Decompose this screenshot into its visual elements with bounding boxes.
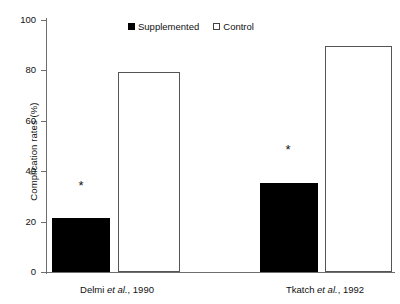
significance-asterisk-delmi: *: [78, 179, 83, 192]
y-tick-label-60: 60: [6, 115, 36, 126]
bar-delmi-control: [118, 72, 180, 272]
chart-legend: Supplemented Control: [128, 21, 254, 32]
group-label-tkatch: Tkatch et al., 1992: [286, 284, 364, 295]
legend-label-control: Control: [223, 21, 254, 32]
group-label-tkatch-name: Tkatch: [286, 284, 317, 295]
y-tick-label-20: 20: [6, 216, 36, 227]
group-label-delmi: Delmi et al., 1990: [80, 284, 154, 295]
group-label-tkatch-etal: et al.: [317, 284, 338, 295]
group-label-delmi-year: , 1990: [128, 284, 154, 295]
complication-rates-bar-chart: Complication rates (%) 100 80 60 40 20 0…: [0, 0, 400, 304]
legend-swatch-open-icon: [213, 23, 220, 30]
legend-swatch-filled-icon: [128, 23, 135, 30]
plot-area: [46, 20, 394, 272]
y-tick-0: [41, 272, 46, 273]
y-tick-label-0: 0: [6, 266, 36, 277]
bar-tkatch-control: [325, 46, 392, 272]
group-label-delmi-name: Delmi: [80, 284, 107, 295]
y-tick-label-100: 100: [6, 14, 36, 25]
legend-entry-supplemented: Supplemented: [128, 21, 199, 32]
y-tick-label-40: 40: [6, 165, 36, 176]
bar-delmi-supplemented: [52, 218, 110, 272]
y-axis-title: Complication rates (%): [28, 67, 39, 237]
legend-label-supplemented: Supplemented: [138, 21, 199, 32]
significance-asterisk-tkatch: *: [285, 143, 290, 156]
x-axis-line: [45, 272, 395, 273]
bar-tkatch-supplemented: [260, 183, 318, 272]
y-tick-label-80: 80: [6, 64, 36, 75]
legend-entry-control: Control: [213, 21, 254, 32]
group-label-tkatch-year: , 1992: [338, 284, 364, 295]
group-label-delmi-etal: et al.: [107, 284, 128, 295]
